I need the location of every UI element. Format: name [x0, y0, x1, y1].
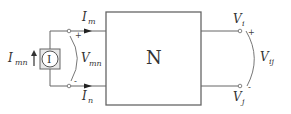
- right-wiring: [201, 31, 239, 86]
- voltage-ij-arc: [246, 31, 254, 86]
- current-source-symbol: I: [47, 53, 51, 66]
- current-arrow-n-icon: [84, 84, 92, 89]
- voltage-mn-minus: -: [74, 77, 77, 86]
- voltage-ij-plus: +: [248, 28, 255, 37]
- network-label: N: [146, 47, 162, 68]
- node-i-sub: i: [242, 19, 245, 28]
- network-box: N: [106, 12, 201, 105]
- terminal-n: [67, 84, 71, 88]
- current-m-sub: m: [88, 17, 96, 26]
- source-current-sub: mn: [15, 58, 28, 67]
- terminal-m: [67, 29, 71, 33]
- terminal-j: [238, 84, 242, 88]
- voltage-mn-sub: mn: [89, 59, 102, 68]
- voltage-mn-arc: [70, 36, 77, 81]
- current-m-label: I: [81, 10, 87, 24]
- current-source: I: [40, 49, 60, 69]
- current-arrow-m-icon: [84, 29, 92, 34]
- current-n-label: I: [81, 89, 87, 103]
- voltage-ij-sub: ij: [269, 57, 275, 66]
- voltage-ij-minus: -: [248, 83, 251, 92]
- source-current-label: I: [7, 51, 13, 65]
- source-current-arrow-icon: [31, 50, 37, 66]
- circuit-diagram: N I I mn I m I n + - V mn V i V: [0, 0, 291, 114]
- voltage-mn-plus: +: [75, 31, 82, 40]
- current-n-sub: n: [88, 96, 93, 105]
- terminal-i: [238, 29, 242, 33]
